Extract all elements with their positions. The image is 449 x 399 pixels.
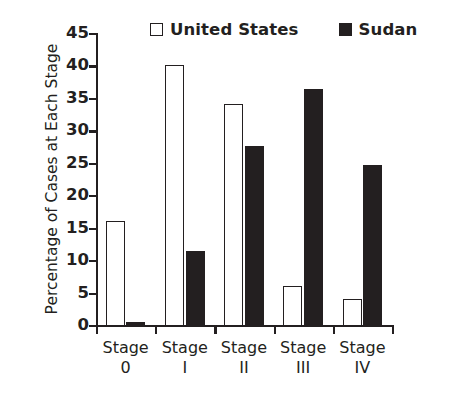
- y-axis-tick: 20: [89, 195, 97, 197]
- bar-united-states-stage-iii: [283, 286, 302, 325]
- x-axis-label-stage-ii: StageII: [214, 338, 273, 379]
- y-axis-tick: 25: [89, 163, 97, 165]
- bar-sudan-stage-iv: [363, 165, 382, 325]
- y-axis-tick: 15: [89, 228, 97, 230]
- bar-sudan-stage-iii: [304, 89, 323, 325]
- plot-area: 051015202530354045: [96, 33, 392, 325]
- y-axis-tick: 35: [89, 98, 97, 100]
- bar-united-states-stage-iv: [343, 299, 362, 325]
- y-axis-line: [96, 33, 98, 325]
- x-axis-label-line1: Stage: [280, 338, 326, 357]
- x-axis-label-line2: IV: [333, 358, 392, 378]
- y-axis-tick-label: 35: [55, 88, 89, 107]
- x-axis-tick: [392, 325, 394, 334]
- x-axis-tick: [155, 325, 157, 334]
- bar-sudan-stage-i: [186, 251, 205, 325]
- x-axis-label-line1: Stage: [221, 338, 267, 357]
- y-axis-tick-label: 0: [55, 315, 89, 334]
- y-axis-tick-label: 30: [55, 120, 89, 139]
- bar-sudan-stage-ii: [245, 146, 264, 325]
- y-axis-tick-label: 5: [55, 283, 89, 302]
- x-axis-tick: [274, 325, 276, 334]
- x-axis-label-stage-0: Stage0: [96, 338, 155, 379]
- x-axis-labels: Stage0StageIStageIIStageIIIStageIV: [96, 338, 392, 396]
- x-axis-label-line2: III: [274, 358, 333, 378]
- x-axis-label-stage-iii: StageIII: [274, 338, 333, 379]
- y-axis-tick-label: 20: [55, 185, 89, 204]
- x-axis-label-line2: 0: [96, 358, 155, 378]
- x-axis-label-line2: II: [214, 358, 273, 378]
- x-axis-line: [96, 325, 392, 327]
- y-axis-tick-label: 25: [55, 153, 89, 172]
- x-axis-label-line1: Stage: [102, 338, 148, 357]
- y-axis-tick-label: 45: [55, 23, 89, 42]
- y-axis-tick: 30: [89, 130, 97, 132]
- bar-united-states-stage-0: [106, 221, 125, 325]
- y-axis-tick: 40: [89, 65, 97, 67]
- bar-sudan-stage-0: [126, 322, 145, 325]
- x-axis-label-line2: I: [155, 358, 214, 378]
- bar-united-states-stage-ii: [224, 104, 243, 325]
- y-axis-tick-label: 15: [55, 218, 89, 237]
- x-axis-label-stage-iv: StageIV: [333, 338, 392, 379]
- y-axis-tick: 10: [89, 260, 97, 262]
- bar-united-states-stage-i: [165, 65, 184, 325]
- y-axis-tick: 5: [89, 293, 97, 295]
- x-axis-tick: [214, 325, 216, 334]
- x-axis-label-stage-i: StageI: [155, 338, 214, 379]
- y-axis-tick: 45: [89, 33, 97, 35]
- x-axis-tick: [96, 325, 98, 334]
- x-axis-tick: [333, 325, 335, 334]
- x-axis-label-line1: Stage: [339, 338, 385, 357]
- y-axis-tick-label: 40: [55, 55, 89, 74]
- bar-chart: United States Sudan Percentage of Cases …: [0, 0, 449, 399]
- x-axis-label-line1: Stage: [162, 338, 208, 357]
- y-axis-tick-label: 10: [55, 250, 89, 269]
